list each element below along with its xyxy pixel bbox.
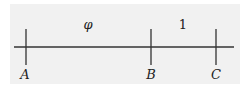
point-label-c: C bbox=[211, 67, 221, 82]
point-label-b: B bbox=[145, 67, 156, 82]
segment-label-ab: φ bbox=[83, 17, 93, 32]
point-label-a: A bbox=[19, 67, 29, 82]
golden-ratio-line-diagram: φ 1 A B C bbox=[0, 0, 247, 88]
segment-label-bc: 1 bbox=[179, 17, 187, 32]
